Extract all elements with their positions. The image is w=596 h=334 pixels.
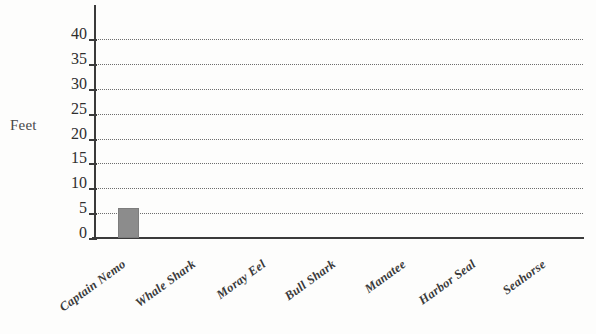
gridline — [94, 39, 583, 40]
gridline — [94, 213, 583, 214]
gridline — [94, 163, 583, 164]
y-axis-tick-label: 15 — [57, 149, 87, 167]
y-axis-tick — [89, 163, 97, 165]
y-axis-tick-label: 30 — [57, 75, 87, 93]
gridline — [94, 64, 583, 65]
y-axis-tick — [89, 213, 97, 215]
gridline — [94, 188, 583, 189]
y-axis-tick-label: 5 — [57, 199, 87, 217]
x-axis-line — [92, 237, 584, 239]
gridline — [94, 139, 583, 140]
plot-area: 0510152025303540 — [94, 5, 584, 239]
y-axis-tick-label: 35 — [57, 50, 87, 68]
y-axis-tick — [89, 238, 97, 240]
y-axis-tick-label: 40 — [57, 25, 87, 43]
gridline — [94, 89, 583, 90]
y-axis-tick-label: 0 — [57, 224, 87, 242]
y-axis-tick-label: 10 — [57, 174, 87, 192]
y-axis-tick — [89, 89, 97, 91]
y-axis-tick — [89, 64, 97, 66]
y-axis-tick — [89, 114, 97, 116]
bar — [118, 208, 139, 238]
y-axis-tick-label: 20 — [57, 125, 87, 143]
bar-chart: Feet 0510152025303540 Captain NemoWhale … — [0, 0, 596, 334]
y-axis-tick — [89, 39, 97, 41]
y-axis-tick-label: 25 — [57, 100, 87, 118]
y-axis-tick — [89, 188, 97, 190]
y-axis-tick — [89, 139, 97, 141]
gridline — [94, 114, 583, 115]
